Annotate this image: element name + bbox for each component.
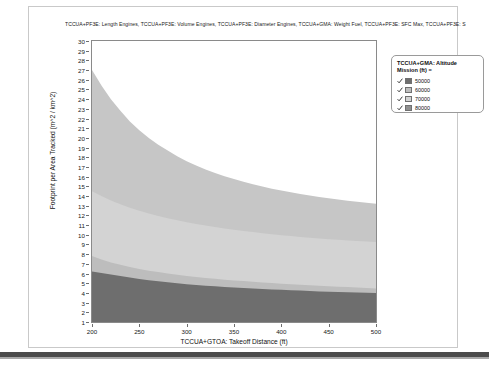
y-tick-label: 6 [82, 270, 85, 277]
y-tick-mark [86, 244, 89, 245]
screenshot-root: TCCUA+PF3E: Length Engines, TCCUA+PF3E: … [0, 0, 489, 373]
y-tick-label: 13 [78, 202, 85, 209]
x-tick-mark [281, 324, 282, 327]
y-tick-label: 20 [78, 134, 85, 141]
x-tick-mark [92, 324, 93, 327]
y-tick-mark [86, 99, 89, 100]
y-tick-mark [86, 196, 89, 197]
y-tick-label: 16 [78, 173, 85, 180]
y-tick-label: 27 [78, 67, 85, 74]
y-tick-label: 4 [82, 289, 85, 296]
legend-item-label: 80000 [415, 105, 430, 112]
y-tick-label: 29 [78, 47, 85, 54]
y-tick-label: 9 [82, 241, 85, 248]
legend-title-line-2: Mission (ft) = [397, 67, 478, 74]
y-tick-label: 10 [78, 231, 85, 238]
x-tick-mark [187, 324, 188, 327]
y-tick-label: 19 [78, 144, 85, 151]
legend-item-label: 70000 [415, 96, 430, 103]
y-tick-label: 28 [78, 57, 85, 64]
y-tick-mark [86, 138, 89, 139]
y-tick-mark [86, 322, 89, 323]
y-tick-mark [86, 293, 89, 294]
legend-color-swatch [405, 78, 412, 84]
y-tick-mark [86, 157, 89, 158]
plot-frame [91, 40, 377, 323]
check-mark-icon[interactable] [397, 105, 403, 111]
y-tick-label: 30 [78, 38, 85, 45]
y-tick-mark [86, 177, 89, 178]
legend-color-swatch [405, 96, 412, 102]
y-tick-mark [86, 80, 89, 81]
legend-title: TCCUA+GMA: Altitude Mission (ft) = [397, 60, 478, 74]
y-tick-label: 18 [78, 154, 85, 161]
legend-color-swatch [405, 87, 412, 93]
x-tick-label: 350 [229, 328, 239, 335]
y-tick-mark [86, 167, 89, 168]
legend-row[interactable]: 80000 [397, 104, 478, 112]
y-tick-mark [86, 274, 89, 275]
y-tick-label: 2 [82, 309, 85, 316]
y-tick-label: 5 [82, 280, 85, 287]
x-tick-label: 200 [87, 328, 97, 335]
x-tick-label: 300 [181, 328, 191, 335]
legend-box[interactable]: TCCUA+GMA: Altitude Mission (ft) = 50000… [391, 55, 484, 113]
legend-item-label: 50000 [415, 78, 430, 85]
legend-title-line-1: TCCUA+GMA: Altitude [397, 60, 478, 67]
chart-panel: TCCUA+PF3E: Length Engines, TCCUA+PF3E: … [28, 6, 458, 348]
y-tick-label: 1 [82, 319, 85, 326]
y-tick-mark [86, 235, 89, 236]
x-axis-label: TCCUA+GTOA: Takeoff Distance (ft) [91, 338, 377, 345]
legend-row[interactable]: 70000 [397, 95, 478, 103]
y-tick-label: 17 [78, 163, 85, 170]
y-tick-label: 25 [78, 86, 85, 93]
y-tick-label: 15 [78, 183, 85, 190]
y-axis-ticks: 1234567891011121314151617181920212223242… [29, 40, 89, 323]
y-tick-mark [86, 148, 89, 149]
check-mark-icon[interactable] [397, 78, 403, 84]
y-tick-mark [86, 119, 89, 120]
legend-row[interactable]: 50000 [397, 77, 478, 85]
y-tick-mark [86, 225, 89, 226]
y-tick-label: 8 [82, 251, 85, 258]
y-tick-label: 23 [78, 105, 85, 112]
legend-item-label: 60000 [415, 87, 430, 94]
y-tick-mark [86, 303, 89, 304]
y-tick-label: 11 [79, 222, 85, 229]
legend-items: 50000600007000080000 [397, 77, 478, 112]
y-tick-label: 21 [78, 125, 85, 132]
x-tick-mark [329, 324, 330, 327]
y-tick-mark [86, 89, 89, 90]
y-tick-label: 22 [78, 115, 85, 122]
y-tick-label: 7 [82, 260, 85, 267]
y-tick-mark [86, 312, 89, 313]
y-tick-mark [86, 109, 89, 110]
check-mark-icon[interactable] [397, 96, 403, 102]
chart-title: TCCUA+PF3E: Length Engines, TCCUA+PF3E: … [65, 18, 489, 30]
y-tick-label: 26 [78, 76, 85, 83]
x-tick-mark [234, 324, 235, 327]
x-tick-label: 500 [371, 328, 381, 335]
x-tick-label: 250 [134, 328, 144, 335]
y-tick-mark [86, 186, 89, 187]
y-tick-mark [86, 128, 89, 129]
y-tick-mark [86, 264, 89, 265]
y-tick-label: 3 [82, 299, 85, 306]
y-tick-label: 14 [78, 193, 85, 200]
plot-area [91, 40, 377, 323]
stacked-area-svg [92, 41, 376, 322]
y-tick-mark [86, 70, 89, 71]
y-tick-mark [86, 215, 89, 216]
x-tick-mark [139, 324, 140, 327]
check-mark-icon[interactable] [397, 87, 403, 93]
legend-row[interactable]: 60000 [397, 86, 478, 94]
x-tick-label: 400 [276, 328, 286, 335]
y-tick-mark [86, 41, 89, 42]
y-tick-mark [86, 206, 89, 207]
x-tick-label: 450 [323, 328, 333, 335]
y-tick-mark [86, 60, 89, 61]
y-tick-label: 24 [78, 96, 85, 103]
legend-color-swatch [405, 105, 412, 111]
x-tick-mark [376, 324, 377, 327]
y-tick-label: 12 [78, 212, 85, 219]
